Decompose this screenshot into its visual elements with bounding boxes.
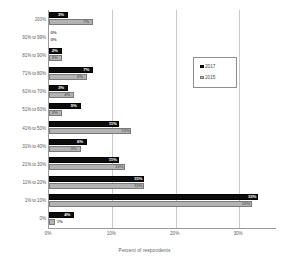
bar-value-label: 2%: [52, 55, 58, 61]
bar-value-label: 0%: [51, 37, 57, 43]
bar-group: 3%7%: [49, 10, 276, 28]
bar-value-label: 7%: [83, 19, 89, 25]
bar-value-label: 2%: [52, 110, 58, 116]
y-tick-label: 41% to 50%: [0, 125, 46, 132]
bar-value-label: 11%: [109, 157, 117, 163]
bar-value-label: 13%: [121, 128, 129, 134]
y-tick-label: 61% to 70%: [0, 88, 46, 95]
bar-value-label: 3%: [58, 12, 64, 18]
y-tick-label: 91% to 99%: [0, 34, 46, 41]
bar-value-label: 12%: [115, 164, 123, 170]
legend-swatch-icon: [200, 76, 204, 80]
bar-value-label: 1%: [57, 219, 63, 225]
bar-2015: [49, 219, 55, 225]
bar-value-label: 5%: [71, 103, 77, 109]
legend-item-2017: 2017: [200, 64, 215, 69]
bar-2017: [49, 212, 74, 218]
bar-value-label: 2%: [52, 48, 58, 54]
bar-value-label: 15%: [134, 176, 142, 182]
x-axis-ticks: 0%10%20%30%: [48, 231, 276, 241]
bar-2017: [49, 194, 258, 200]
y-axis-labels: 100%91% to 99%81% to 90%71% to 80%61% to…: [0, 10, 46, 228]
x-tick-label: 20%: [170, 231, 179, 236]
y-tick-label: 100%: [0, 16, 46, 23]
bar-group: 2%2%: [49, 46, 276, 64]
x-axis-title: Percent of respondents: [0, 248, 289, 253]
bar-group: 0%0%: [49, 28, 276, 46]
bar-value-label: 5%: [71, 146, 77, 152]
y-tick-label: 51% to 60%: [0, 106, 46, 113]
x-axis-line: [48, 228, 276, 229]
y-tick-label: 11% to 20%: [0, 179, 46, 186]
y-tick-label: 31% to 40%: [0, 143, 46, 150]
bar-2017: [49, 176, 144, 182]
bar-group: 6%5%: [49, 137, 276, 155]
y-tick-label: 81% to 90%: [0, 52, 46, 59]
bar-group: 33%32%: [49, 192, 276, 210]
bar-2015: [49, 128, 131, 134]
bar-value-label: 6%: [77, 74, 83, 80]
y-tick-label: 21% to 30%: [0, 161, 46, 168]
bar-group: 11%12%: [49, 155, 276, 173]
bar-group: 7%6%: [49, 65, 276, 83]
bar-group: 5%2%: [49, 101, 276, 119]
y-tick-label: 0%: [0, 215, 46, 222]
bar-2015: [49, 92, 74, 98]
bar-value-label: 3%: [58, 85, 64, 91]
bar-value-label: 11%: [109, 121, 117, 127]
legend: 2017 2015: [193, 57, 237, 88]
bar-group: 4%1%: [49, 210, 276, 228]
bar-value-label: 7%: [83, 67, 89, 73]
x-tick-label: 0%: [45, 231, 52, 236]
bar-2015: [49, 164, 125, 170]
legend-label: 2017: [205, 64, 215, 69]
bar-value-label: 15%: [134, 183, 142, 189]
bar-2015: [49, 201, 252, 207]
plot-area: 3%7%0%0%2%2%7%6%3%4%5%2%11%13%6%5%11%12%…: [48, 10, 276, 228]
bar-value-label: 6%: [77, 139, 83, 145]
legend-label: 2015: [205, 75, 215, 80]
x-tick-label: 10%: [107, 231, 116, 236]
bar-group: 3%4%: [49, 83, 276, 101]
bar-value-label: 0%: [51, 30, 57, 36]
bar-group: 11%13%: [49, 119, 276, 137]
x-tick-label: 30%: [233, 231, 242, 236]
legend-swatch-icon: [200, 65, 204, 69]
bar-value-label: 4%: [64, 92, 70, 98]
bar-value-label: 33%: [248, 194, 256, 200]
legend-item-2015: 2015: [200, 75, 215, 80]
bar-value-label: 4%: [64, 212, 70, 218]
bar-2015: [49, 183, 144, 189]
y-tick-label: 1% to 10%: [0, 197, 46, 204]
bar-chart: 100%91% to 99%81% to 90%71% to 80%61% to…: [0, 0, 289, 268]
bar-group: 15%15%: [49, 174, 276, 192]
bar-value-label: 32%: [242, 201, 250, 207]
y-tick-label: 71% to 80%: [0, 70, 46, 77]
